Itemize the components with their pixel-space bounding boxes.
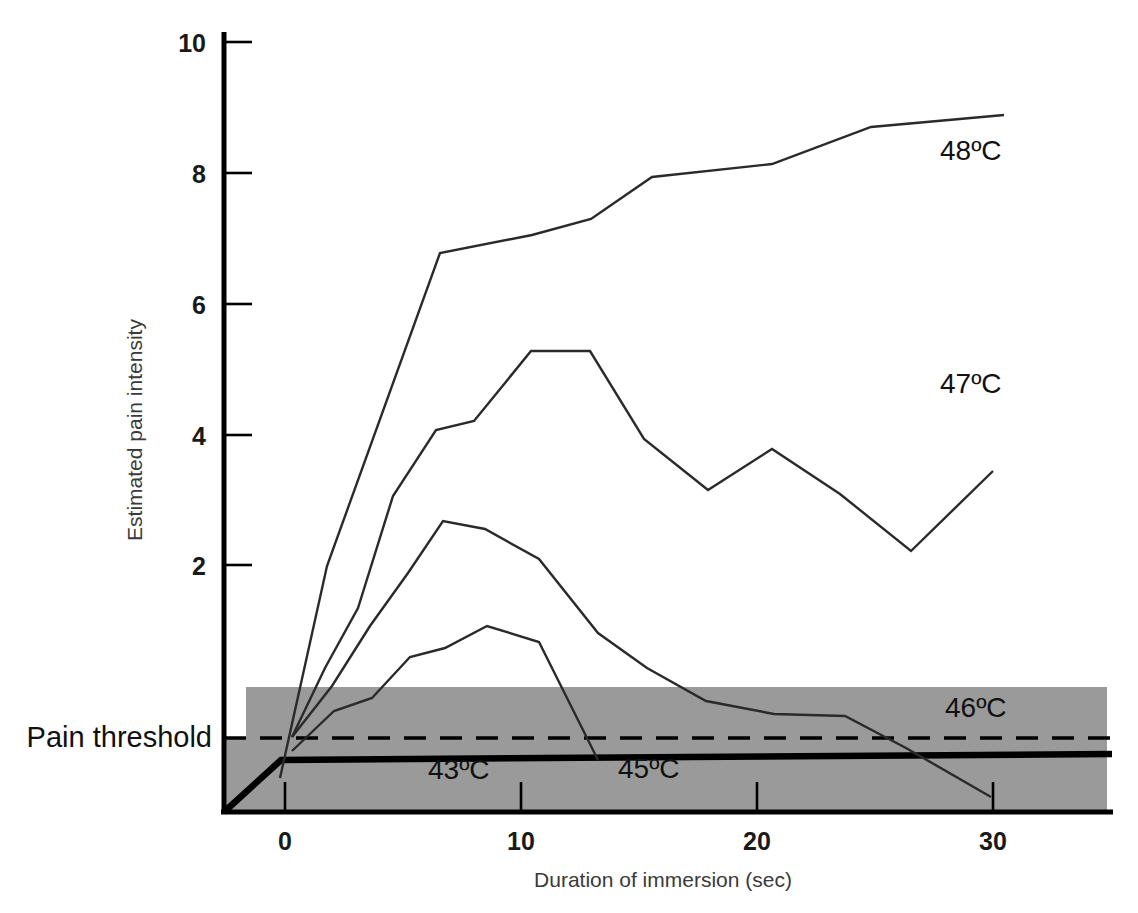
y-tick-label-4: 4 xyxy=(192,422,206,450)
x-tick-label-10: 10 xyxy=(507,827,535,855)
y-tick-label-2: 2 xyxy=(192,552,206,580)
pain-threshold-label: Pain threshold xyxy=(27,721,212,753)
x-tick-label-0: 0 xyxy=(278,827,292,855)
y-tick-label-6: 6 xyxy=(192,291,206,319)
x-tick-label-30: 30 xyxy=(979,827,1007,855)
y-tick-label-8: 8 xyxy=(192,160,206,188)
y-axis-title: Estimated pain intensity xyxy=(123,319,146,541)
chart-canvas: 10 8 6 4 2 0 10 20 30 Estimated pain int… xyxy=(0,0,1138,913)
series-label-45c: 45ºC xyxy=(618,753,680,784)
y-tick-marks xyxy=(226,42,252,565)
pain-intensity-chart: 10 8 6 4 2 0 10 20 30 Estimated pain int… xyxy=(0,0,1138,913)
x-axis-title: Duration of immersion (sec) xyxy=(534,868,792,891)
y-tick-label-10: 10 xyxy=(178,29,206,57)
series-label-48c: 48ºC xyxy=(940,135,1002,166)
series-label-47c: 47ºC xyxy=(940,368,1002,399)
series-label-43c: 43ºC xyxy=(428,754,490,785)
x-tick-label-20: 20 xyxy=(743,827,771,855)
series-label-46c: 46ºC xyxy=(945,692,1007,723)
series-line-47c xyxy=(292,351,993,737)
